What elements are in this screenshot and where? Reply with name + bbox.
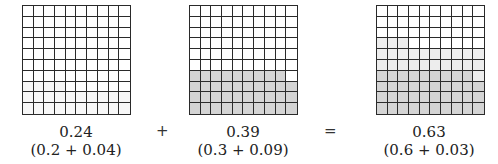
grid-cell [119, 6, 130, 17]
grid-cell [201, 92, 212, 103]
grid-cell [109, 28, 120, 39]
grid-cell [87, 49, 98, 60]
grid-cell [377, 103, 388, 114]
grid-cell [23, 60, 34, 71]
panel-3-value: 0.63 [354, 123, 498, 141]
grid-cell [463, 38, 474, 49]
grid-cell [420, 17, 431, 28]
grid-cell [119, 49, 130, 60]
grid-cell [211, 38, 222, 49]
grid-cell [119, 92, 130, 103]
grid-cell [222, 71, 233, 82]
grid-cell [211, 6, 222, 17]
grid-cell [452, 82, 463, 93]
grid-cell [243, 71, 254, 82]
grid-cell [190, 38, 201, 49]
grid-cell [377, 92, 388, 103]
grid-cell [377, 60, 388, 71]
grid-cell [452, 28, 463, 39]
grid-cell [34, 49, 45, 60]
grid-cell [473, 92, 484, 103]
grid-cell [222, 103, 233, 114]
grid-cell [276, 38, 287, 49]
grid-cell [66, 38, 77, 49]
grid-cell [473, 82, 484, 93]
grid-cell [286, 17, 297, 28]
grid-cell [55, 71, 66, 82]
grid-cell [420, 38, 431, 49]
grid-cell [66, 103, 77, 114]
grid-cell [265, 6, 276, 17]
grid-cell [276, 92, 287, 103]
grid-cell [233, 103, 244, 114]
grid-cell [66, 71, 77, 82]
grid-cell [98, 103, 109, 114]
grid-cell [276, 60, 287, 71]
grid-cell [473, 17, 484, 28]
grid-cell [119, 28, 130, 39]
grid-cell [265, 17, 276, 28]
grid-cell [430, 28, 441, 39]
grid-cell [398, 6, 409, 17]
grid-cell [430, 6, 441, 17]
grid-cell [463, 71, 474, 82]
grid-cell [452, 17, 463, 28]
grid-cell [398, 49, 409, 60]
grid-cell [119, 17, 130, 28]
grid-cell [452, 49, 463, 60]
grid-cell [286, 28, 297, 39]
grid-cell [34, 6, 45, 17]
grid-cell [66, 92, 77, 103]
grid-cell [98, 82, 109, 93]
grid-cell [452, 92, 463, 103]
grid-cell [420, 49, 431, 60]
grid-cell [286, 6, 297, 17]
grid-cell [44, 71, 55, 82]
grid-cell [23, 49, 34, 60]
grid-cell [23, 92, 34, 103]
equals-sign: = [324, 122, 337, 140]
grid-cell [388, 49, 399, 60]
grid-cell [55, 103, 66, 114]
grid-panel-2 [189, 5, 298, 115]
grid-cell [98, 71, 109, 82]
grid-cell [452, 103, 463, 114]
grid-cell [211, 17, 222, 28]
grid-cell [409, 28, 420, 39]
grid-cell [23, 103, 34, 114]
grid-cell [55, 60, 66, 71]
grid-cell [44, 28, 55, 39]
grid-cell [190, 82, 201, 93]
grid-cell [420, 6, 431, 17]
grid-cell [377, 71, 388, 82]
grid-cell [398, 92, 409, 103]
grid-cell [190, 103, 201, 114]
grid-cell [254, 60, 265, 71]
grid-cell [23, 28, 34, 39]
grid-cell [201, 49, 212, 60]
grid-cell [377, 6, 388, 17]
grid-cell [430, 82, 441, 93]
grid-cell [211, 60, 222, 71]
grid-cell [441, 103, 452, 114]
panel-1-label: 0.24 (0.2 + 0.04) [1, 123, 151, 159]
grid-cell [201, 82, 212, 93]
grid-cell [243, 103, 254, 114]
grid-cell [109, 17, 120, 28]
grid-cell [420, 103, 431, 114]
grid-cell [452, 71, 463, 82]
grid-cell [76, 71, 87, 82]
grid-cell [76, 49, 87, 60]
grid-cell [276, 17, 287, 28]
grid-cell [286, 71, 297, 82]
grid-cell [377, 38, 388, 49]
grid-cell [55, 28, 66, 39]
grid-cell [190, 17, 201, 28]
panel-2-label: 0.39 (0.3 + 0.09) [168, 123, 318, 159]
grid-cell [87, 103, 98, 114]
grid-cell [276, 49, 287, 60]
panel-3-expansion: (0.6 + 0.03) [354, 141, 498, 159]
grid-cell [420, 28, 431, 39]
grid-cell [254, 71, 265, 82]
grid-cell [98, 17, 109, 28]
